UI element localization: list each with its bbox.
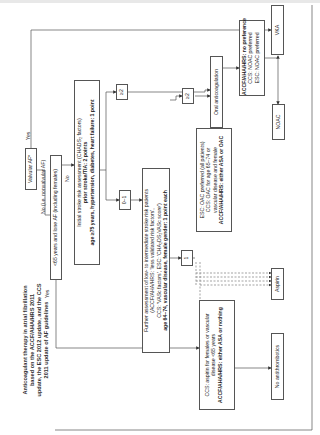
further-line-4: age 64–74, vascular disease, female gend… [162,169,168,352]
title-line-4: 2011 update of AF guidelines [43,280,50,400]
score-0-1-label: 0–1 [121,191,127,209]
nopref-line-3: ESC: NOAC preferred [254,21,260,95]
nonvalvular-label: No (i.e. nonvalvular AF) [40,160,46,214]
diagram-title: Anticoagulant therapy in atrial fibrilla… [22,280,50,400]
aspirin-label: Aspirin [274,269,280,299]
no-preference-text: ACCF/AHA/HRS: no preference CCS: NOAC pr… [241,21,260,95]
further-assessment-text: Further assessment of low- to intermedia… [143,169,169,352]
initial-line-3: age ≥75 years, hypertension, diabetes, h… [89,81,95,264]
ccs-line-3: ACCF/AHA/HRS: either ASA or nothing [217,301,223,409]
score-ge2-label-a: ≥2 [118,85,124,99]
edge-label-yes-top: Yes [25,132,31,140]
noac-label: NOAC [275,105,281,139]
esc-recommendation-text: ESC: OAC preferred (all patients) CCS: O… [199,129,225,231]
score-ge2-label-b: ≥2 [184,89,190,103]
edge-label-no: No [64,175,70,182]
score-1-label: 1 [183,251,189,265]
title-line-1: Anticoagulant therapy in atrial fibrilla… [22,280,29,400]
valvular-af-label: Valvular AF* [27,149,33,189]
title-line-3: update, the ESC 2012 update, and the CCS [36,280,43,400]
no-antithrombotics-label: No antithrombotics [274,334,280,399]
ccs-aspirin-text: CCS: aspirin for females or vascular dis… [204,301,223,409]
vka-label: VKA [274,6,280,54]
initial-risk-text: Initial stroke risk assessment (CHADS₂ f… [76,81,95,264]
edge-label-yes-bottom: Yes [44,290,50,298]
lone-af-label: <65 years and lone AF (including females… [52,156,58,279]
title-line-2: based on the ACCF/AHA/HRS 2011 [29,280,36,400]
oral-anticoagulation-label: Oral anticoagulation [213,57,219,127]
esc-line-4: ACCF/AHA/HRS: either ASA or OAC [218,129,224,231]
